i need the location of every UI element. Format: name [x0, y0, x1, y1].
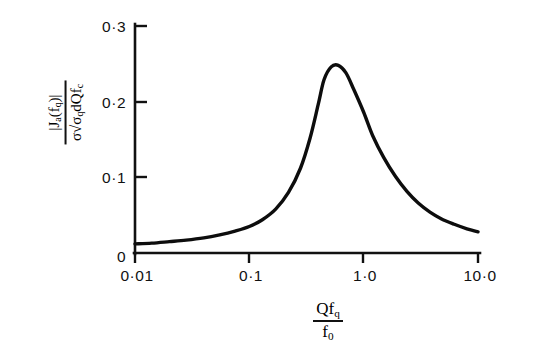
x-axis-title-fraction: Qfq f0 [313, 300, 343, 343]
x-axis-title-num-main: Qf [316, 299, 334, 318]
radical-icon: √ [68, 125, 84, 133]
dq-symbol: dQ [68, 93, 84, 111]
y-ticklabel-0p1: 0·1 [102, 169, 126, 186]
x-axis-title: Qfq f0 [268, 300, 388, 343]
chart-figure: 0·3 0·2 0·1 0 0·01 0·1 1·0 10·0 Qfq f0 |… [0, 0, 538, 356]
y-axis-title-num-sub-a: a [52, 117, 63, 121]
x-axis-title-denominator: f0 [313, 320, 343, 342]
y-ticklabel-0p2: 0·2 [102, 94, 126, 111]
y-axis-title-fraction: |Ja(fq)| σ√σqdQfc [46, 81, 87, 144]
y-ticklabel-0p3: 0·3 [102, 18, 126, 35]
y-axis-title-denominator: σ√σqdQfc [65, 81, 86, 144]
y-axis-title-num-mid: (f [46, 107, 62, 117]
fc-main: f [68, 88, 84, 93]
y-ticklabel-0: 0 [117, 248, 126, 265]
x-axis-title-num-sub: q [334, 307, 340, 319]
y-axis-title-num-close: )| [46, 94, 62, 102]
x-axis-title-numerator: Qfq [313, 300, 343, 320]
x-ticklabel-10p0: 10·0 [463, 267, 496, 284]
sigma-symbol: σ [68, 133, 84, 141]
sigma-q-subscript: q [75, 112, 86, 117]
x-ticklabel-1p0: 1·0 [353, 267, 377, 284]
y-axis-title-numerator: |Ja(fq)| [46, 81, 65, 144]
sigma-q-symbol: σ [68, 117, 84, 125]
x-axis-title-den-sub: 0 [328, 330, 334, 342]
y-axis-title-num-open: |J [46, 122, 62, 131]
y-axis-title: |Ja(fq)| σ√σqdQfc [46, 42, 87, 182]
y-axis-title-num-sub-q: q [52, 102, 63, 107]
data-curve [135, 65, 478, 244]
fc-subscript: c [75, 84, 86, 88]
x-ticklabel-0p01: 0·01 [120, 267, 153, 284]
x-ticklabel-0p1: 0·1 [239, 267, 263, 284]
